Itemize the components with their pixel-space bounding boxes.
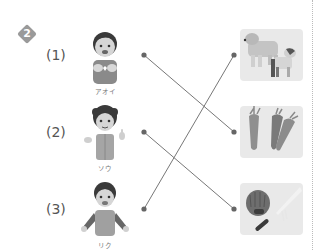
connection-line-3-to-1 [144, 55, 234, 209]
matching-lines [0, 0, 316, 250]
right-dot-3[interactable] [231, 206, 236, 211]
connection-line-1-to-2 [144, 55, 234, 132]
connection-line-2-to-3 [144, 132, 234, 209]
left-dot-2[interactable] [141, 129, 146, 134]
right-dot-1[interactable] [231, 52, 236, 57]
left-dot-1[interactable] [141, 52, 146, 57]
right-dot-2[interactable] [231, 129, 236, 134]
left-dot-3[interactable] [141, 206, 146, 211]
